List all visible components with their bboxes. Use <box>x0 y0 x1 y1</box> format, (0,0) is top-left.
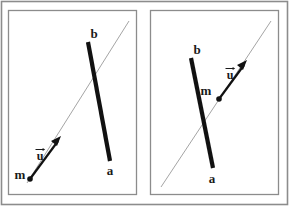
label-m: m <box>201 83 212 98</box>
label-a: a <box>107 163 114 178</box>
panel-right: b a m u <box>151 11 279 195</box>
panel-left: b a m u <box>9 11 137 195</box>
point-m <box>216 96 222 102</box>
diagram-canvas: b a m u b a m <box>0 0 289 206</box>
label-b: b <box>90 26 97 41</box>
label-m: m <box>15 167 26 182</box>
label-vector-u: u <box>37 149 44 163</box>
label-b: b <box>193 42 200 57</box>
point-m <box>27 176 33 182</box>
figure-root: b a m u b a m <box>0 0 289 206</box>
label-a: a <box>209 171 216 186</box>
panel-left-border <box>9 11 137 195</box>
label-vector-u: u <box>227 68 234 82</box>
